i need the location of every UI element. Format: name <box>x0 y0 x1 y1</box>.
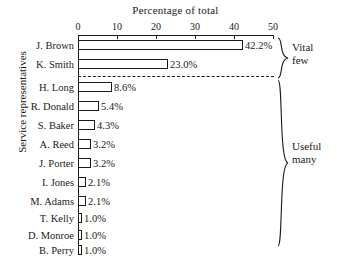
vital-few-bracket <box>277 37 289 79</box>
bar-value-label: 42.2% <box>245 40 272 52</box>
vital-few-label-line2: few <box>292 54 309 67</box>
bar-category-label: K. Smith <box>0 59 74 71</box>
bar-category-label: I. Jones <box>0 177 74 189</box>
bar-category-label: B. Perry <box>0 245 74 257</box>
bar-value-label: 1.0% <box>84 213 106 225</box>
chart-title: Percentage of total <box>78 4 273 16</box>
useful-many-bracket <box>277 79 289 247</box>
bar-rect <box>78 230 82 240</box>
bar-value-label: 4.3% <box>97 120 119 132</box>
bar-value-label: 1.0% <box>84 245 106 257</box>
bar-rect <box>78 213 82 223</box>
x-tick-label-50: 50 <box>268 21 278 32</box>
bar-rect <box>78 139 91 149</box>
useful-many-label-line1: Useful <box>292 140 321 153</box>
x-tick-label-30: 30 <box>190 21 200 32</box>
x-tick-label-10: 10 <box>112 21 122 32</box>
bar-rect <box>78 40 243 50</box>
bar-category-label: T. Kelly <box>0 213 74 225</box>
x-tick-label-20: 20 <box>151 21 161 32</box>
bar-value-label: 1.0% <box>84 230 106 242</box>
vital-few-divider <box>78 76 274 77</box>
bar-rect <box>78 177 86 187</box>
x-tick-label-0: 0 <box>76 21 81 32</box>
bar-rect <box>78 101 99 111</box>
bar-category-label: A. Reed <box>0 139 74 151</box>
x-tick-label-40: 40 <box>229 21 239 32</box>
bar-category-label: S. Baker <box>0 120 74 132</box>
bar-category-label: M. Adams <box>0 196 74 208</box>
bar-category-label: D. Monroe <box>0 230 74 242</box>
bar-value-label: 3.2% <box>93 139 115 151</box>
bar-rect <box>78 196 86 206</box>
bar-value-label: 3.2% <box>93 158 115 170</box>
bar-value-label: 2.1% <box>88 196 110 208</box>
useful-many-label-line2: many <box>292 153 316 166</box>
bar-rect <box>78 245 82 255</box>
bar-category-label: H. Long <box>0 82 74 94</box>
x-axis-line <box>78 35 274 36</box>
bar-value-label: 8.6% <box>114 82 136 94</box>
bar-rect <box>78 158 91 168</box>
bar-category-label: J. Porter <box>0 158 74 170</box>
bar-rect <box>78 59 168 69</box>
vital-few-label-line1: Vital <box>292 41 313 54</box>
bar-category-label: R. Donald <box>0 101 74 113</box>
bar-value-label: 2.1% <box>88 177 110 189</box>
pareto-chart: Percentage of total 0 10 20 30 40 50 Ser… <box>0 0 337 259</box>
bar-rect <box>78 82 112 92</box>
bar-category-label: J. Brown <box>0 40 74 52</box>
bar-value-label: 5.4% <box>101 101 123 113</box>
bar-rect <box>78 120 95 130</box>
bar-value-label: 23.0% <box>170 59 197 71</box>
